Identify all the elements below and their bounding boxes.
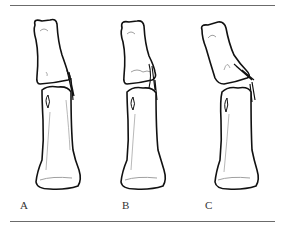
panel-a: A [0, 0, 95, 235]
bone-drawing-b [85, 0, 180, 235]
bottom-rule [10, 221, 275, 222]
panel-label-c: C [205, 199, 212, 211]
panel-b: B [85, 0, 180, 235]
bone-drawing-c [172, 0, 267, 235]
bone-drawing-a [0, 0, 95, 235]
panel-label-b: B [122, 199, 129, 211]
panel-label-a: A [20, 199, 28, 211]
panel-c: C [172, 0, 267, 235]
